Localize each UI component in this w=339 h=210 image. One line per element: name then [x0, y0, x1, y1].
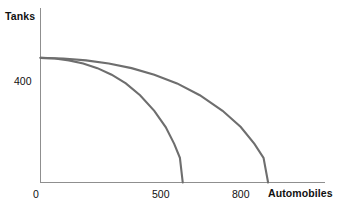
x-axis-tick-label-800: 800	[232, 189, 250, 200]
y-axis-tick-label-400: 400	[14, 76, 32, 87]
x-axis-tick-label-500: 500	[152, 189, 170, 200]
outer-ppf-curve	[41, 58, 269, 183]
ppf-chart-figure: Tanks 400 0 500 800 Automobiles	[0, 0, 339, 210]
y-axis-title: Tanks	[5, 11, 35, 22]
x-axis-tick-label-0: 0	[33, 189, 39, 200]
chart-plot-area	[0, 0, 339, 210]
x-axis-title: Automobiles	[268, 188, 333, 199]
